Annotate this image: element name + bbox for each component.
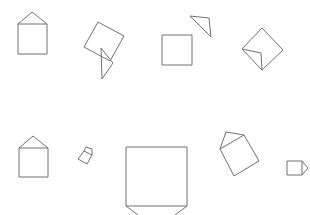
roof-triangle-shape	[18, 12, 47, 24]
diamond-with-fold	[242, 28, 283, 70]
triangle-shape	[101, 48, 113, 79]
house-figure-1	[18, 12, 47, 54]
square-shape	[242, 28, 283, 70]
square-shape	[287, 161, 302, 175]
square-shape	[220, 135, 259, 176]
house-figure-2	[19, 136, 48, 177]
bottom-row	[19, 132, 308, 215]
triangle-shape	[190, 16, 211, 37]
left-leg-line	[126, 206, 138, 215]
square-shape	[126, 147, 187, 206]
square-with-detached-triangle	[162, 16, 211, 65]
top-row	[18, 12, 283, 79]
diagram-canvas	[0, 0, 310, 215]
square-shape	[84, 22, 124, 61]
roof-triangle-shape	[302, 161, 308, 175]
square-shape	[19, 148, 48, 177]
square-shape	[162, 35, 192, 65]
roof-shape	[84, 147, 92, 155]
square-shape	[78, 151, 92, 164]
small-house-sideways	[287, 161, 308, 175]
small-tilted-house	[78, 147, 92, 164]
tilted-square-with-roof	[220, 132, 259, 176]
square-shape	[18, 24, 47, 54]
tilted-square-with-triangle	[84, 22, 124, 79]
right-leg-line	[175, 206, 187, 215]
large-square-with-legs	[126, 147, 187, 215]
roof-triangle-shape	[19, 136, 48, 148]
shapes-svg	[0, 0, 310, 215]
